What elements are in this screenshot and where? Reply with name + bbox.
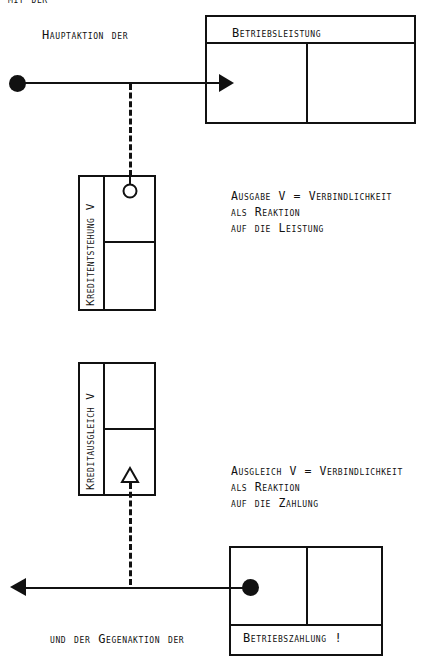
annotation-bottom: Ausgleich V = Verbindlichkeit als Reakti…: [231, 463, 403, 511]
annotation-top-line-3: auf die Leistung: [231, 220, 392, 236]
annotation-top-line-1: Ausgabe V = Verbindlichkeit: [231, 188, 392, 204]
header-fragment: mit der: [8, 0, 48, 6]
annotation-bottom-line-3: auf die Zahlung: [231, 495, 403, 511]
kreditausgleich-row-divider: [103, 428, 156, 430]
bottom-flow-line: [20, 587, 250, 589]
arrow-right-icon: [219, 74, 235, 92]
flow-source-dot-icon: [242, 579, 259, 596]
dashed-connector-top: [129, 84, 132, 176]
kreditausgleich-label: Kreditausgleich V: [84, 393, 97, 491]
betriebszahlung-footer-divider: [229, 624, 383, 626]
annotation-bottom-line-2: als Reaktion: [231, 479, 403, 495]
betriebsleistung-header-divider: [205, 42, 416, 44]
annotation-bottom-line-1: Ausgleich V = Verbindlichkeit: [231, 463, 403, 479]
betriebsleistung-box: Betriebsleistung: [205, 15, 416, 124]
dashed-connector-bottom: [129, 483, 132, 585]
top-flow-line: [17, 82, 227, 84]
bottom-flow-label: und der Gegenaktion der: [50, 632, 184, 646]
annotation-top-line-2: als Reaktion: [231, 204, 392, 220]
betriebszahlung-column-divider: [306, 546, 308, 625]
top-flow-label: Hauptaktion der: [42, 28, 128, 42]
kreditentstehung-row-divider: [103, 241, 156, 243]
annotation-top: Ausgabe V = Verbindlichkeit als Reaktion…: [231, 188, 392, 236]
kreditentstehung-label: Kreditentstehung V: [84, 203, 97, 306]
circle-icon: [122, 183, 138, 199]
betriebsleistung-column-divider: [306, 42, 308, 124]
triangle-icon: [121, 467, 139, 483]
betriebszahlung-title: Betriebszahlung !: [243, 631, 342, 645]
kreditentstehung-label-divider: [103, 175, 105, 311]
betriebsleistung-title: Betriebsleistung: [232, 26, 321, 40]
